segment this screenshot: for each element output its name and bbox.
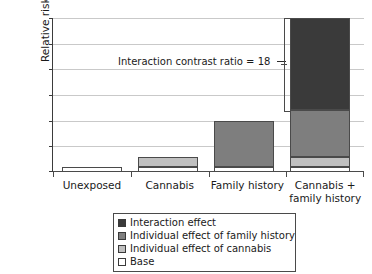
bar-segment-base xyxy=(214,167,274,172)
x-tick-mark-4 xyxy=(363,172,364,177)
x-axis-label-line: Cannabis xyxy=(131,179,209,192)
legend-swatch-icon xyxy=(118,258,126,266)
x-tick-mark-3 xyxy=(286,172,287,177)
x-tick-mark-0 xyxy=(53,172,54,177)
x-tick-mark-1 xyxy=(131,172,132,177)
legend-item-label: Individual effect of family history xyxy=(130,230,295,241)
x-axis-label-line: family history xyxy=(286,192,364,205)
bar-cannabis xyxy=(138,157,198,172)
y-tick-mark-30 xyxy=(49,18,53,19)
bar-segment-interaction-effect xyxy=(290,18,350,110)
bracket-middle-tick xyxy=(281,64,287,65)
legend-swatch-icon xyxy=(118,232,126,240)
y-tick-mark-10 xyxy=(49,121,53,122)
x-axis-label-family-history: Family history xyxy=(209,179,287,192)
relative-risk-stacked-bar-chart: Relative risk 30 25 20 15 10 5 0 xyxy=(0,0,372,274)
legend-swatch-icon xyxy=(118,219,126,227)
bar-segment-base xyxy=(290,167,350,172)
chart-legend: Interaction effect Individual effect of … xyxy=(113,213,296,272)
x-axis-label-line: Family history xyxy=(209,179,287,192)
plot-area: Relative risk 30 25 20 15 10 5 0 xyxy=(52,18,363,172)
y-tick-mark-25 xyxy=(49,44,53,45)
bar-segment-individual-effect-of-family-history xyxy=(214,121,274,167)
legend-item-interaction-effect: Interaction effect xyxy=(118,216,291,229)
legend-item-label: Individual effect of cannabis xyxy=(130,243,271,254)
bar-segment-individual-effect-of-cannabis xyxy=(290,157,350,167)
x-axis-label-cannabis-plus-family-history: Cannabis + family history xyxy=(286,179,364,204)
bar-cannabis-plus-family-history xyxy=(290,18,350,172)
bar-unexposed xyxy=(62,167,122,172)
interaction-contrast-ratio-annotation: Interaction contrast ratio = 18 xyxy=(118,56,270,67)
legend-item-individual-effect-of-cannabis: Individual effect of cannabis xyxy=(118,242,291,255)
legend-swatch-icon xyxy=(118,245,126,253)
x-axis-label-unexposed: Unexposed xyxy=(53,179,131,192)
x-tick-mark-2 xyxy=(209,172,210,177)
legend-item-individual-effect-of-family-history: Individual effect of family history xyxy=(118,229,291,242)
x-axis-label-line: Cannabis + xyxy=(286,179,364,192)
y-tick-mark-5 xyxy=(49,146,53,147)
bar-segment-base xyxy=(62,167,122,172)
bar-segment-individual-effect-of-cannabis xyxy=(138,157,198,167)
legend-item-label: Interaction effect xyxy=(130,217,216,228)
bar-segment-individual-effect-of-family-history xyxy=(290,110,350,156)
bar-segment-base xyxy=(138,167,198,172)
bar-family-history xyxy=(214,121,274,172)
y-tick-mark-20 xyxy=(49,69,53,70)
y-tick-mark-15 xyxy=(49,95,53,96)
x-axis-label-cannabis: Cannabis xyxy=(131,179,209,192)
legend-item-label: Base xyxy=(130,256,154,267)
legend-item-base: Base xyxy=(118,255,291,268)
x-axis-label-line: Unexposed xyxy=(53,179,131,192)
y-axis-title: Relative risk xyxy=(39,0,51,62)
